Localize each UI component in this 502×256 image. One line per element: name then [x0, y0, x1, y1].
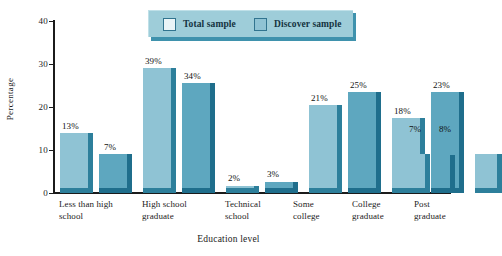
x-category-label-technical-school: Technical school	[225, 199, 261, 222]
y-axis-title: Percentage	[5, 59, 15, 139]
y-tick-label-40: 40	[26, 16, 48, 26]
y-tick-0	[49, 193, 54, 194]
x-category-label-high-school-graduate: High school graduate	[142, 199, 187, 222]
cat-line-1: College	[352, 199, 384, 211]
x-category-label-some-college: Some college	[293, 199, 320, 222]
bar-total-post-graduate-visible[interactable]	[404, 154, 430, 193]
x-category-label-college-graduate: College graduate	[352, 199, 384, 222]
y-axis-title-holder: Percentage	[0, 60, 20, 140]
y-tick-label-10: 10	[26, 145, 48, 155]
cat-line-2: graduate	[352, 211, 384, 223]
x-category-label-less-than-high-school: Less than high school	[59, 199, 113, 222]
x-axis-title: Education level	[0, 234, 457, 244]
bar-value-discover-post-graduate: 8%	[439, 124, 451, 134]
bar-side	[425, 154, 430, 193]
y-tick-label-0: 0	[26, 188, 48, 198]
cat-line-2: college	[293, 211, 320, 223]
cat-line-1: High school	[142, 199, 187, 211]
bar-base	[475, 188, 497, 193]
cat-line-1: Technical	[225, 199, 261, 211]
cat-line-2: school	[59, 211, 113, 223]
y-tick-label-20: 20	[26, 102, 48, 112]
bar-side	[450, 155, 455, 193]
bar-discover-post-graduate[interactable]	[434, 155, 455, 193]
bar-side	[459, 92, 464, 193]
bar-value-total-post-graduate: 7%	[409, 124, 421, 134]
cat-line-2: school	[225, 211, 261, 223]
bar-base	[404, 188, 425, 193]
cat-line-1: Post	[414, 199, 446, 211]
cat-line-1: Less than high	[59, 199, 113, 211]
bar-side	[497, 154, 502, 193]
x-category-label-post-graduate: Post graduate	[414, 199, 446, 222]
y-tick-label-30: 30	[26, 59, 48, 69]
cat-line-1: Some	[293, 199, 320, 211]
cat-line-2: graduate	[142, 211, 187, 223]
cat-line-2: graduate	[414, 211, 446, 223]
bar-total-post-graduate[interactable]	[475, 154, 502, 193]
plot-area-overflow	[54, 21, 453, 193]
bar-base	[434, 188, 450, 193]
